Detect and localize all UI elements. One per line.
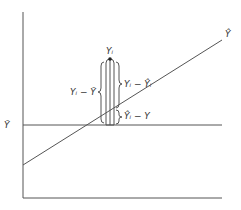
label-residual: Yᵢ − Ŷᵢ <box>124 78 152 89</box>
regression-line <box>23 40 222 165</box>
label-total-deviation: Yᵢ − Ȳ <box>70 87 97 97</box>
label-y-hat: Ŷ <box>225 28 232 39</box>
explained-brace <box>116 110 122 124</box>
regression-deviation-diagram: Yᵢ Ŷ Ȳ Yᵢ − Ȳ Yᵢ − Ŷᵢ Ŷᵢ − Y <box>0 0 241 210</box>
total-deviation-brace <box>98 62 104 123</box>
label-y-bar: Ȳ <box>4 120 11 130</box>
data-point-yi <box>108 57 112 61</box>
label-yi: Yᵢ <box>106 46 113 56</box>
label-explained: Ŷᵢ − Y <box>124 110 151 121</box>
residual-brace <box>116 62 122 108</box>
